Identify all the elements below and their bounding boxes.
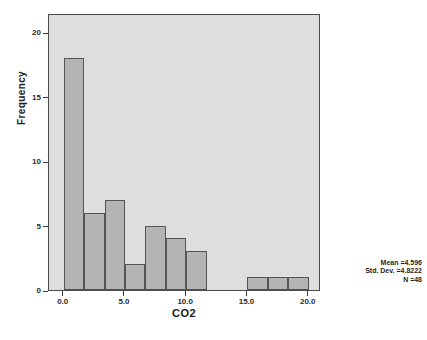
stat-n: N =48 (330, 276, 422, 284)
x-tick-label: 10.0 (171, 297, 199, 306)
x-tick-mark (185, 291, 186, 296)
histogram-bar (268, 277, 288, 290)
plot-area (48, 14, 320, 291)
histogram-figure: 05101520 Frequency 0.05.010.015.020.0 CO… (0, 0, 427, 340)
y-tick-label: 0 (37, 285, 41, 296)
stat-mean: Mean =4.596 (330, 259, 422, 267)
histogram-bar (125, 264, 145, 290)
x-tick-mark (62, 291, 63, 296)
y-tick-label: 20 (32, 27, 41, 38)
y-tick-label: 15 (32, 92, 41, 103)
histogram-bar (64, 58, 84, 290)
y-axis: 05101520 (0, 14, 48, 291)
x-tick-mark (246, 291, 247, 296)
x-tick-label: 5.0 (110, 297, 138, 306)
histogram-bar (105, 200, 125, 290)
bars-layer (49, 15, 319, 290)
histogram-bar (288, 277, 308, 290)
y-tick-label: 10 (32, 156, 41, 167)
histogram-bar (145, 226, 165, 290)
y-axis-title: Frequency (16, 58, 27, 138)
x-tick-label: 0.0 (49, 297, 77, 306)
histogram-bar (166, 238, 186, 290)
x-axis-title: CO2 (48, 307, 320, 319)
y-tick-label: 5 (37, 221, 41, 232)
histogram-bar (186, 251, 206, 290)
x-tick-mark (123, 291, 124, 296)
x-tick-mark (307, 291, 308, 296)
x-tick-label: 15.0 (232, 297, 260, 306)
stat-std-dev: Std. Dev. =4.8222 (330, 267, 422, 275)
histogram-bar (247, 277, 267, 290)
x-tick-label: 20.0 (294, 297, 322, 306)
histogram-bar (84, 213, 104, 290)
statistics-annotation: Mean =4.596 Std. Dev. =4.8222 N =48 (330, 259, 422, 284)
